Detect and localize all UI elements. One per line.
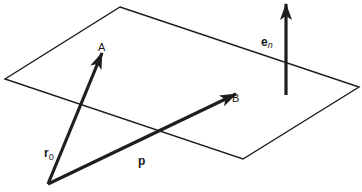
label-p: p: [138, 154, 145, 168]
label-r0-sub: 0: [49, 152, 54, 162]
plane: [5, 7, 359, 159]
vector-p: [48, 94, 236, 184]
label-en: en: [261, 35, 273, 50]
label-point-a: A: [98, 41, 106, 53]
label-r0: r0: [44, 146, 54, 162]
label-en-sub: n: [268, 40, 273, 50]
plane-vector-diagram: A B r0 p en: [0, 0, 362, 192]
label-point-b: B: [232, 92, 239, 104]
vector-r0: [48, 53, 102, 184]
